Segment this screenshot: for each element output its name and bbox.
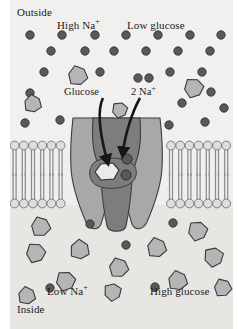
lipid-head-group — [185, 199, 194, 208]
diagram-canvas — [0, 0, 238, 329]
lipid-head-group — [194, 199, 203, 208]
label-two-sodium-charge: + — [152, 84, 156, 93]
lipid-head-group — [167, 199, 176, 208]
lipid-head-group — [176, 199, 185, 208]
lipid-head-group — [213, 199, 222, 208]
sodium-ion — [206, 47, 214, 55]
sodium-ion — [81, 47, 89, 55]
label-two-sodium-transported: 2 Na+ — [131, 86, 156, 97]
sodium-ion — [198, 68, 206, 76]
lipid-head-group — [194, 141, 203, 150]
label-high-sodium-text: High Na — [57, 19, 95, 31]
sodium-ion — [166, 68, 174, 76]
sodium-ion — [56, 116, 64, 124]
lipid-head-group — [10, 199, 19, 208]
sodium-ion — [174, 47, 182, 55]
label-low-sodium-text: Low Na — [47, 285, 83, 297]
lipid-head-group — [29, 199, 38, 208]
label-high-glucose: High glucose — [150, 285, 210, 297]
sodium-ion — [58, 31, 66, 39]
sodium-ion — [169, 219, 177, 227]
bound-sodium-ion-2 — [121, 170, 131, 180]
label-low-glucose: Low glucose — [127, 19, 185, 31]
sodium-ion — [134, 74, 142, 82]
lipid-head-group — [38, 199, 47, 208]
label-low-sodium: Low Na+ — [47, 285, 88, 297]
sodium-ion — [178, 99, 186, 107]
lipid-head-group — [185, 141, 194, 150]
sodium-ion — [110, 47, 118, 55]
sodium-ion — [217, 31, 225, 39]
sodium-ion — [145, 74, 153, 82]
lipid-head-group — [213, 141, 222, 150]
lipid-head-group — [19, 141, 28, 150]
sodium-ion — [186, 31, 194, 39]
sodium-ion — [142, 47, 150, 55]
lipid-head-group — [56, 141, 65, 150]
bound-sodium-ion-1 — [122, 154, 132, 164]
sodium-ion — [86, 220, 94, 228]
lipid-head-group — [19, 199, 28, 208]
lipid-head-group — [167, 141, 176, 150]
sodium-ion — [96, 68, 104, 76]
sodium-ion — [40, 68, 48, 76]
membrane-transport-diagram: Outside High Na+ Low glucose Glucose 2 N… — [0, 0, 238, 329]
lipid-head-group — [47, 141, 56, 150]
sodium-ion — [207, 88, 215, 96]
sodium-ion — [154, 31, 162, 39]
lipid-head-group — [203, 199, 212, 208]
sodium-ion — [165, 121, 173, 129]
sodium-glucose-cotransporter-protein — [71, 118, 163, 231]
sodium-ion — [91, 31, 99, 39]
label-glucose-transported: Glucose — [64, 86, 99, 97]
lipid-head-group — [10, 141, 19, 150]
lipid-head-group — [38, 141, 47, 150]
sodium-ion — [21, 119, 29, 127]
label-two-sodium-text: 2 Na — [131, 86, 152, 97]
lipid-head-group — [222, 141, 231, 150]
lipid-head-group — [176, 141, 185, 150]
label-high-sodium-charge: + — [95, 17, 100, 26]
sodium-ion — [122, 241, 130, 249]
lipid-head-group — [222, 199, 231, 208]
label-inside: Inside — [17, 303, 44, 315]
label-low-sodium-charge: + — [83, 283, 88, 292]
sodium-ion — [201, 118, 209, 126]
sodium-ion — [26, 31, 34, 39]
label-outside: Outside — [17, 6, 52, 18]
sodium-ion — [122, 31, 130, 39]
lipid-head-group — [203, 141, 212, 150]
label-high-sodium: High Na+ — [57, 19, 100, 31]
sodium-ion — [220, 104, 228, 112]
sodium-ion — [47, 47, 55, 55]
lipid-head-group — [56, 199, 65, 208]
lipid-head-group — [29, 141, 38, 150]
lipid-head-group — [47, 199, 56, 208]
